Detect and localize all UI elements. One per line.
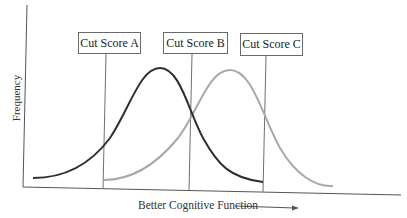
cut-score-c-line — [263, 56, 266, 192]
cut-score-a-line — [103, 54, 106, 189]
arrowhead-icon — [292, 206, 299, 211]
cut-score-c-label: Cut Score C — [240, 33, 303, 56]
y-axis-label: Frequency — [10, 68, 22, 128]
y-axis — [23, 5, 27, 187]
x-axis — [23, 187, 401, 195]
cut-score-b-line — [189, 54, 192, 191]
x-axis-label: Better Cognitive Function — [138, 199, 258, 211]
cut-score-b-label: Cut Score B — [163, 32, 228, 54]
cut-score-a-label: Cut Score A — [78, 32, 141, 54]
